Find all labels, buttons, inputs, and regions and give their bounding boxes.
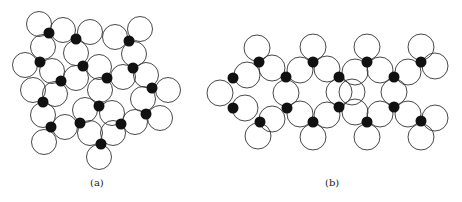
contact-dot <box>102 73 113 84</box>
open-circle <box>354 34 380 60</box>
contact-dot <box>334 102 345 113</box>
open-circle <box>148 106 173 131</box>
open-circle <box>32 130 57 155</box>
open-circle <box>78 20 103 45</box>
contact-dot <box>334 72 345 83</box>
contact-dot <box>116 119 127 130</box>
contact-dot <box>416 116 427 127</box>
open-circle <box>408 124 434 150</box>
contact-dot <box>94 101 105 112</box>
contact-dot <box>38 97 49 108</box>
contact-dot <box>308 57 319 68</box>
open-circle <box>103 25 128 50</box>
contact-dot <box>362 117 373 128</box>
panel-b-chain-packing <box>207 34 448 150</box>
contact-dot <box>56 76 67 87</box>
contact-dot <box>416 57 427 68</box>
contact-dot <box>228 73 239 84</box>
contact-dot <box>128 63 139 74</box>
contact-dot <box>96 139 107 150</box>
open-circle <box>13 53 38 78</box>
contact-dot <box>254 57 265 68</box>
contact-dot <box>78 61 89 72</box>
contact-dot <box>141 109 152 120</box>
open-circle <box>300 124 326 150</box>
contact-dot <box>124 36 135 47</box>
contact-dot <box>228 103 239 114</box>
open-circle <box>354 124 380 150</box>
open-circle <box>31 35 56 60</box>
contact-dot <box>308 117 319 128</box>
contact-dot <box>75 118 86 129</box>
open-circle <box>381 79 407 105</box>
panel-a-caption: (a) <box>90 177 104 188</box>
contact-dot <box>281 72 292 83</box>
contact-dot <box>389 72 400 83</box>
contact-dot <box>389 102 400 113</box>
panel-a-random-packing <box>13 12 181 170</box>
contact-dot <box>44 28 55 39</box>
open-circle <box>408 34 434 60</box>
contact-dot <box>362 57 373 68</box>
contact-dot <box>46 122 57 133</box>
open-circle <box>156 78 181 103</box>
open-circle <box>73 98 98 123</box>
contact-dot <box>71 34 82 45</box>
open-circle <box>422 105 448 131</box>
contact-dot <box>35 57 46 68</box>
panel-b-caption: (b) <box>325 177 339 188</box>
contact-dot <box>282 103 293 114</box>
open-circle <box>300 34 326 60</box>
figure-canvas <box>0 0 462 202</box>
contact-dot <box>255 117 266 128</box>
contact-dot <box>147 83 158 94</box>
open-circle <box>207 80 233 106</box>
open-circle <box>422 53 448 79</box>
